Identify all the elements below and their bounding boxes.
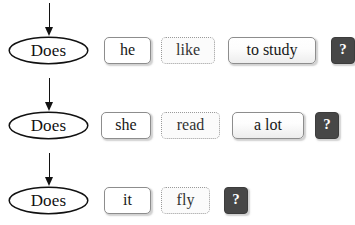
- arrow-shaft: [49, 153, 50, 179]
- down-arrow-icon: [44, 3, 56, 36]
- sentence-row: Doesheliketo study?: [0, 0, 352, 75]
- word-tile[interactable]: it: [104, 187, 151, 214]
- auxiliary-ellipse[interactable]: Does: [8, 186, 89, 215]
- word-tile[interactable]: like: [161, 37, 215, 64]
- question-mark-tile[interactable]: ?: [315, 112, 339, 139]
- word-tile[interactable]: he: [104, 37, 151, 64]
- word-tile[interactable]: read: [161, 112, 220, 139]
- arrow-head: [45, 27, 53, 36]
- word-tile[interactable]: a lot: [232, 112, 304, 139]
- word-tile[interactable]: she: [101, 112, 151, 139]
- question-mark-tile[interactable]: ?: [224, 187, 248, 214]
- word-tile[interactable]: fly: [161, 187, 210, 214]
- arrow-head: [45, 102, 53, 111]
- auxiliary-label: Does: [8, 111, 89, 140]
- down-arrow-icon: [44, 153, 56, 186]
- word-tile[interactable]: to study: [228, 37, 316, 64]
- sentence-row: Doesitfly?: [0, 150, 352, 225]
- arrow-shaft: [49, 78, 50, 104]
- sentence-row: Doesshereada lot?: [0, 75, 352, 150]
- arrow-head: [45, 177, 53, 186]
- down-arrow-icon: [44, 78, 56, 111]
- auxiliary-label: Does: [8, 186, 89, 215]
- auxiliary-label: Does: [8, 36, 89, 65]
- arrow-shaft: [49, 3, 50, 29]
- auxiliary-ellipse[interactable]: Does: [8, 111, 89, 140]
- question-mark-tile[interactable]: ?: [331, 37, 355, 64]
- auxiliary-ellipse[interactable]: Does: [8, 36, 89, 65]
